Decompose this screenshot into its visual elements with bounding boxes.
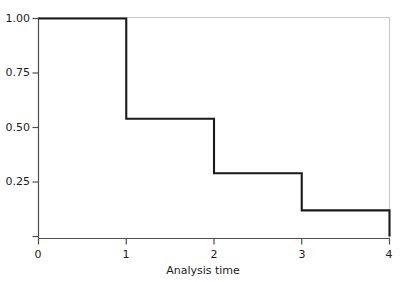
y-tick-label-1: 1.00 [0,12,30,25]
x-tick-label-1: 1 [111,248,141,261]
x-tick-label-0: 0 [23,248,53,261]
survival-chart-figure: 1.00 0.75 0.50 0.25 0 1 2 3 4 Analysis t… [0,0,406,282]
x-tick-label-4: 4 [374,248,404,261]
y-tick-label-050: 0.50 [0,121,30,134]
y-tick-label-025: 0.25 [0,175,30,188]
x-tick-label-3: 3 [287,248,317,261]
survivor-step-curve [39,19,390,237]
y-tick-label-075: 0.75 [0,66,30,79]
y-axis-ticks [33,19,39,237]
x-axis-ticks [39,239,390,245]
plot-area-svg [0,0,406,282]
x-tick-label-2: 2 [199,248,229,261]
x-axis-title: Analysis time [0,264,406,277]
